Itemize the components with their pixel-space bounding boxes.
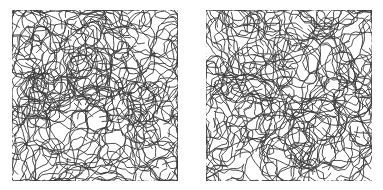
pattern-panel-right (206, 10, 372, 181)
pattern-panel-left (12, 10, 178, 181)
labyrinth-pattern-right (206, 10, 372, 181)
labyrinth-pattern-left (12, 10, 178, 181)
